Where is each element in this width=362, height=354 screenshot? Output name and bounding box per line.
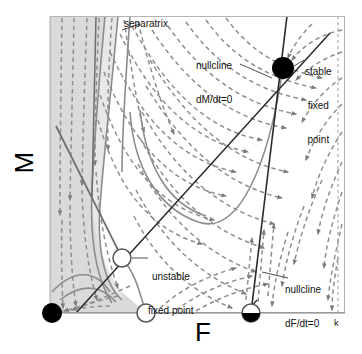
stable-fixed-point-label-line2: fixed [305, 100, 332, 111]
y-axis-label: M [10, 152, 39, 174]
nullcline-dFdt-label: nullcline dF/dt=0 [285, 262, 321, 352]
nullcline-dFdt-label-line2: dF/dt=0 [285, 318, 321, 329]
stable-fixed-point-label-line1: stable [305, 66, 332, 77]
unstable-fixed-point-label-line2: fixed point [148, 305, 194, 316]
bottom-half-filled-fixed-point[interactable] [242, 304, 260, 322]
stable-fixed-point-label: stable fixed point [305, 44, 332, 167]
upper-stable-fixed-point[interactable] [272, 57, 294, 79]
nullcline-dMdt-label: nullcline dM/dt=0 [196, 38, 232, 128]
stable-fixed-point-label-line3: point [305, 134, 332, 145]
nullcline-dMdt-label-line1: nullcline [196, 60, 232, 71]
separatrix-label: separatrix [124, 18, 168, 29]
unstable-fixed-point-label-line1: unstable [148, 271, 194, 282]
origin-stable-fixed-point[interactable] [42, 303, 62, 323]
x-axis-label: F [195, 318, 211, 347]
k-axis-label: k [334, 318, 339, 328]
nullcline-dFdt-label-line1: nullcline [285, 284, 321, 295]
nullcline-dMdt-label-line2: dM/dt=0 [196, 94, 232, 105]
saddle-unstable-fixed-point[interactable] [113, 249, 131, 267]
figure-canvas: M F k separatrix nullcline dM/dt=0 stabl… [0, 0, 362, 354]
unstable-fixed-point-label: unstable fixed point [148, 249, 194, 339]
